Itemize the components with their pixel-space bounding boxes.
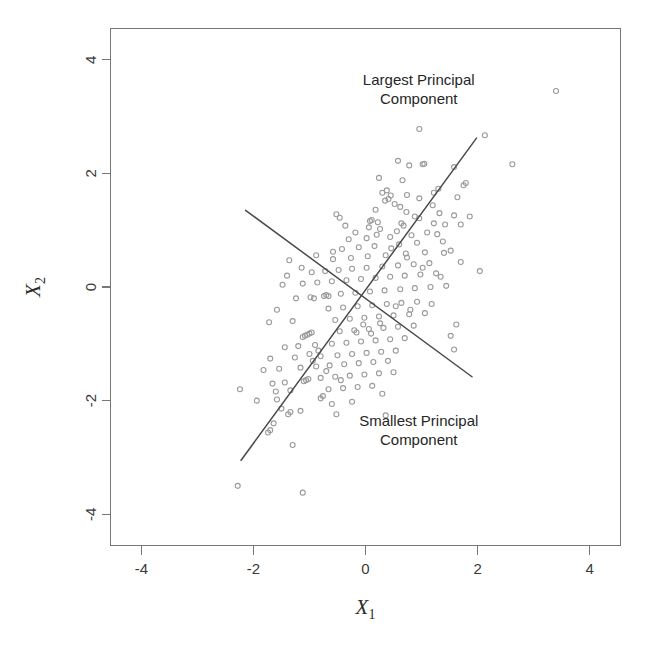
scatter-point (400, 178, 405, 183)
x-tick-label: -4 (135, 560, 148, 577)
scatter-point (452, 347, 457, 352)
scatter-point (274, 397, 279, 402)
scatter-point (404, 192, 409, 197)
scatter-point (329, 341, 334, 346)
scatter-point (300, 281, 305, 286)
scatter-point (318, 375, 323, 380)
scatter-point (510, 162, 515, 167)
scatter-point (422, 250, 427, 255)
scatter-point (290, 319, 295, 324)
scatter-point (309, 270, 314, 275)
scatter-point (427, 261, 432, 266)
scatter-point (402, 273, 407, 278)
scatter-point (482, 133, 487, 138)
scatter-point (300, 490, 305, 495)
x-tick-label: 2 (473, 560, 481, 577)
scatter-point (411, 323, 416, 328)
scatter-point (412, 286, 417, 291)
scatter-point (268, 356, 273, 361)
scatter-point (440, 239, 445, 244)
scatter-point (326, 387, 331, 392)
scatter-point (338, 291, 343, 296)
scatter-point (373, 207, 378, 212)
scatter-point (350, 266, 355, 271)
y-axis: -4-2024 (82, 56, 111, 521)
scatter-point (425, 230, 430, 235)
x-axis: -4-2024 (135, 546, 594, 577)
scatter-point (378, 227, 383, 232)
scatter-point (380, 190, 385, 195)
scatter-point (418, 272, 423, 277)
scatter-point (554, 88, 559, 93)
scatter-point (315, 280, 320, 285)
scatter-point (346, 237, 351, 242)
scatter-point (237, 387, 242, 392)
scatter-point (393, 348, 398, 353)
scatter-point (407, 163, 412, 168)
y-tick-label: 2 (82, 169, 99, 177)
scatter-point (437, 211, 442, 216)
scatter-point (292, 355, 297, 360)
scatter-point (429, 302, 434, 307)
scatter-point (388, 274, 393, 279)
scatter-point (356, 245, 361, 250)
scatter-point (344, 340, 349, 345)
scatter-point (267, 320, 272, 325)
scatter-point (388, 235, 393, 240)
y-tick-label: -4 (82, 508, 99, 521)
scatter-point (327, 363, 332, 368)
scatter-point (365, 254, 370, 259)
scatter-point (337, 215, 342, 220)
scatter-point (355, 304, 360, 309)
scatter-point (438, 274, 443, 279)
scatter-point (369, 331, 374, 336)
scatter-point (338, 378, 343, 383)
scatter-point (392, 202, 397, 207)
scatter-point (355, 384, 360, 389)
scatter-point (435, 232, 440, 237)
scatter-point (415, 299, 420, 304)
scatter-point (353, 230, 358, 235)
scatter-point (393, 304, 398, 309)
scatter-point (385, 358, 390, 363)
scatter-point (372, 244, 377, 249)
y-axis-title-base: X (21, 283, 45, 298)
scatter-point (314, 253, 319, 258)
scatter-point (277, 366, 282, 371)
scatter-point (235, 483, 240, 488)
smallest-principal-component-label: Smallest PrincipalComponent (359, 412, 478, 448)
scatter-point (339, 246, 344, 251)
scatter-point (399, 300, 404, 305)
scatter-point (452, 213, 457, 218)
y-axis-title-subscript: 2 (33, 277, 48, 284)
scatter-point (417, 127, 422, 132)
scatter-point (415, 240, 420, 245)
x-tick-label: 0 (361, 560, 369, 577)
scatter-point (430, 203, 435, 208)
scatter-point (299, 265, 304, 270)
scatter-point (374, 232, 379, 237)
scatter-point (273, 389, 278, 394)
scatter-point (384, 302, 389, 307)
scatter-point (376, 175, 381, 180)
scatter-point (341, 386, 346, 391)
scatter-point (362, 372, 367, 377)
scatter-point (420, 265, 425, 270)
scatter-point (350, 399, 355, 404)
scatter-point (342, 362, 347, 367)
smallest-principal-component-line (246, 210, 472, 376)
scatter-point (458, 222, 463, 227)
scatter-point (261, 367, 266, 372)
scatter-point (330, 249, 335, 254)
y-tick-label: 0 (82, 283, 99, 291)
scatter-point (455, 195, 460, 200)
scatter-point (324, 369, 329, 374)
scatter-point (422, 311, 427, 316)
scatter-point (333, 317, 338, 322)
largest-principal-component-label: Largest PrincipalComponent (363, 71, 475, 107)
y-tick-label: -2 (82, 394, 99, 407)
scatter-point (434, 271, 439, 276)
scatter-point (334, 412, 339, 417)
scatter-point (364, 350, 369, 355)
scatter-point (296, 344, 301, 349)
